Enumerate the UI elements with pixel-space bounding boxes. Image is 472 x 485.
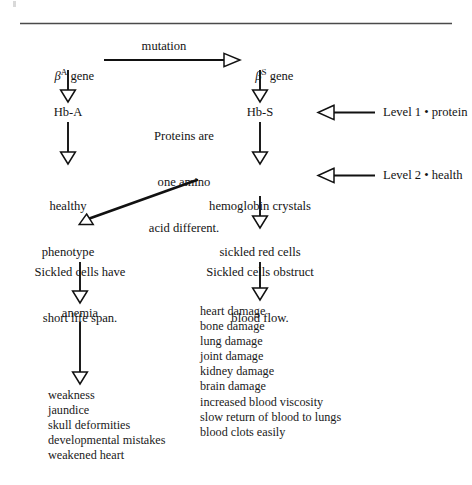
node-anemia: anemia [62, 306, 98, 321]
node-beta-s-gene: βS gene [243, 52, 294, 100]
hemoglobin-crystals-line-1: hemoglobin crystals [209, 199, 311, 214]
beta-a-gene-word: gene [67, 70, 94, 84]
edge-level2 [318, 168, 375, 182]
list-item: slow return of blood to lungs [200, 410, 341, 425]
list-item: lung damage [200, 334, 341, 349]
node-beta-a-gene: βA gene [42, 52, 94, 100]
list-item: weakened heart [48, 448, 165, 463]
edge-mutation [104, 53, 240, 66]
list-item: blood clots easily [200, 425, 341, 440]
list-item: heart damage [200, 304, 341, 319]
annotation-level-2: Level 2 • health [383, 168, 463, 183]
edge-hbA-to-healthy [61, 122, 76, 164]
list-item: skull deformities [48, 418, 165, 433]
node-hb-s: Hb-S [247, 105, 274, 120]
list-item: developmental mistakes [48, 433, 165, 448]
list-item: bone damage [200, 319, 341, 334]
edge-hbS-to-crystals [253, 122, 268, 164]
sickle-cell-pathway-diagram: .ln{stroke:#111;stroke-width:1.9;fill:no… [0, 0, 472, 485]
annotation-level-1: Level 1 • protein [383, 105, 468, 120]
list-item: increased blood viscosity [200, 395, 341, 410]
node-sickled-short-life-span: Sickled cells have short life span. [35, 234, 126, 357]
node-hb-a: Hb-A [54, 105, 83, 120]
list-item: brain damage [200, 379, 341, 394]
list-item: weakness [48, 388, 165, 403]
proteins-note-line-1: Proteins are [149, 129, 219, 144]
obstruct-line-1: Sickled cells obstruct [206, 265, 314, 280]
list-obstruction-effects: heart damagebone damagelung damagejoint … [200, 304, 341, 440]
edge-label-mutation: mutation [142, 39, 187, 54]
beta-s-gene-word: gene [267, 70, 294, 84]
list-anemia-effects: weaknessjaundiceskull deformitiesdevelop… [48, 388, 165, 463]
list-item: kidney damage [200, 364, 341, 379]
list-item: joint damage [200, 349, 341, 364]
edge-level1 [318, 105, 375, 119]
short-life-line-1: Sickled cells have [35, 265, 126, 280]
list-item: jaundice [48, 403, 165, 418]
healthy-phenotype-line-1: healthy [42, 199, 94, 214]
